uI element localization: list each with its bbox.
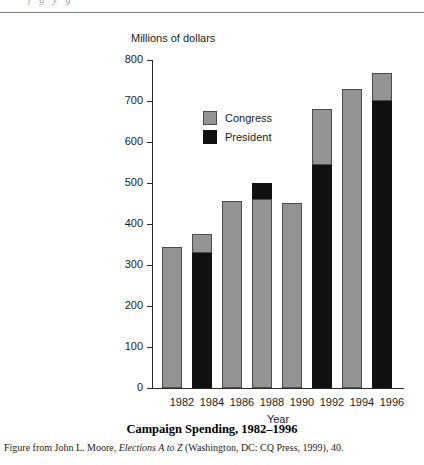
bar-segment-congress bbox=[252, 199, 272, 388]
legend-swatch-congress-icon bbox=[203, 111, 217, 125]
bar-segment-congress bbox=[222, 201, 242, 388]
figure-title: Campaign Spending, 1982–1996 bbox=[0, 422, 424, 437]
bar-segment-congress bbox=[192, 234, 212, 253]
source-prefix: Figure from John L. Moore, bbox=[4, 442, 119, 453]
y-tick-label: 100 bbox=[125, 340, 143, 352]
y-tick-mark bbox=[147, 224, 152, 225]
source-caption: Figure from John L. Moore, Elections A t… bbox=[4, 442, 420, 453]
y-tick-mark bbox=[147, 265, 152, 266]
bar-segment-president bbox=[372, 101, 392, 388]
legend-label-president: President bbox=[225, 131, 271, 143]
legend-label-congress: Congress bbox=[225, 112, 272, 124]
y-tick-mark bbox=[147, 183, 152, 184]
bar-segment-congress bbox=[342, 89, 362, 388]
clipped-header-text: f g y g bbox=[28, 0, 74, 5]
y-tick-mark bbox=[147, 388, 152, 389]
legend-item-congress: Congress bbox=[203, 108, 272, 127]
y-tick-label: 0 bbox=[137, 381, 143, 393]
x-tick-label-1996: 1996 bbox=[372, 396, 412, 408]
bar-segment-president bbox=[252, 183, 272, 199]
y-tick-mark bbox=[147, 101, 152, 102]
y-tick-label: 400 bbox=[125, 217, 143, 229]
bar-segment-congress bbox=[312, 109, 332, 165]
y-tick-label: 500 bbox=[125, 176, 143, 188]
bar-segment-congress bbox=[372, 73, 392, 101]
y-tick-mark bbox=[147, 60, 152, 61]
source-title: Elections A to Z bbox=[119, 442, 183, 453]
bar-segment-president bbox=[312, 165, 332, 388]
y-tick-label: 600 bbox=[125, 135, 143, 147]
y-tick-label: 700 bbox=[125, 94, 143, 106]
y-axis-title: Millions of dollars bbox=[131, 32, 215, 44]
y-tick-label: 300 bbox=[125, 258, 143, 270]
y-tick-label: 200 bbox=[125, 299, 143, 311]
legend-item-president: President bbox=[203, 127, 272, 146]
y-tick-mark bbox=[147, 306, 152, 307]
figure-container: Millions of dollars 0 100 200 300 400 50… bbox=[0, 13, 424, 436]
y-tick-mark bbox=[147, 142, 152, 143]
legend-swatch-president-icon bbox=[203, 130, 217, 144]
y-tick-label: 800 bbox=[125, 53, 143, 65]
bar-segment-congress bbox=[282, 203, 302, 388]
plot-area: 0 100 200 300 400 500 600 700 bbox=[152, 60, 404, 388]
source-suffix: (Washington, DC: CQ Press, 1999), 40. bbox=[183, 442, 344, 453]
bar-segment-president bbox=[192, 253, 212, 388]
chart-legend: Congress President bbox=[203, 108, 272, 146]
y-axis-line bbox=[152, 60, 153, 389]
y-tick-mark bbox=[147, 347, 152, 348]
bar-segment-congress bbox=[162, 247, 182, 388]
x-axis-line bbox=[152, 388, 404, 389]
